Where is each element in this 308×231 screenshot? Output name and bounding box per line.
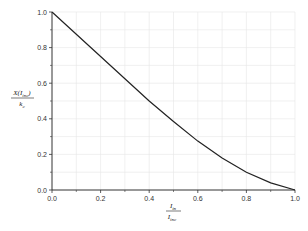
y-tick-label: 0.8 (37, 44, 47, 51)
x-tick-label: 0.8 (242, 195, 252, 202)
y-tick-label: 0.4 (37, 115, 47, 122)
x-label-numerator: Iin (169, 202, 177, 211)
x-label-denominator: Iinc (167, 213, 177, 222)
y-tick-label: 0.0 (37, 187, 47, 194)
y-tick-label: 0.6 (37, 80, 47, 87)
y-label-numerator: X(Iinc) (12, 89, 31, 98)
grid-lines (52, 12, 295, 190)
y-label-denominator: kc (19, 100, 25, 109)
tick-labels: 0.00.20.40.60.81.00.00.20.40.60.81.0 (37, 9, 300, 203)
x-tick-label: 1.0 (290, 195, 300, 202)
x-tick-label: 0.6 (193, 195, 203, 202)
x-tick-label: 0.2 (96, 195, 106, 202)
x-tick-label: 0.4 (144, 195, 154, 202)
y-tick-label: 1.0 (37, 9, 47, 16)
line-chart: 0.00.20.40.60.81.00.00.20.40.60.81.0 X(I… (0, 0, 308, 231)
x-axis-label: IinIinc (166, 202, 181, 222)
axes (49, 12, 295, 193)
y-axis-label: X(Iinc)kc (11, 89, 34, 109)
x-tick-label: 0.0 (47, 195, 57, 202)
y-tick-label: 0.2 (37, 151, 47, 158)
